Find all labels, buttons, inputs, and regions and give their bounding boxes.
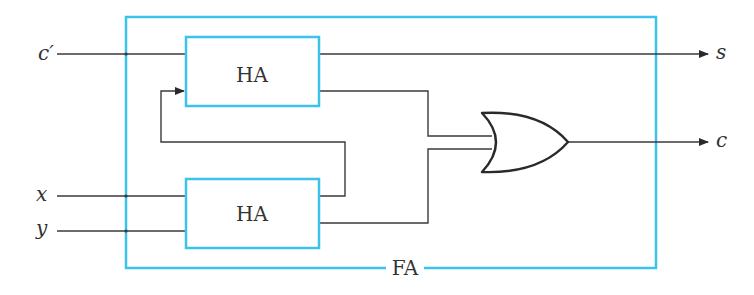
input-label-y: y bbox=[35, 216, 48, 240]
output-label-s: s bbox=[716, 40, 726, 64]
fa-label: FA bbox=[392, 256, 419, 280]
wires bbox=[57, 54, 708, 231]
ha-top-label: HA bbox=[236, 63, 268, 87]
input-label-c-in: c′ bbox=[38, 41, 54, 65]
input-label-x: x bbox=[36, 182, 47, 206]
ha-bottom-label: HA bbox=[236, 202, 268, 226]
output-label-c: c bbox=[716, 128, 727, 152]
full-adder-diagram: FA HA HA c′ x y s c bbox=[0, 0, 754, 295]
wire-ha-top-carry bbox=[319, 91, 492, 136]
or-gate bbox=[482, 113, 568, 172]
